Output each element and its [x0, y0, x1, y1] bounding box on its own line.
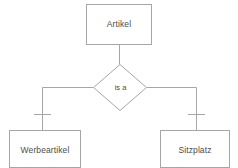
entity-label-artikel: Artikel — [86, 20, 152, 29]
entity-label-werbeartikel: Werbeartikel — [9, 146, 81, 155]
entity-label-sitzplatz: Sitzplatz — [160, 146, 230, 155]
connector-isa-to-sitzplatz — [147, 88, 197, 131]
connector-isa-to-werbeartikel — [43, 88, 94, 131]
relationship-label-is-a: is a — [94, 84, 147, 92]
er-diagram-canvas: Artikel Werbeartikel Sitzplatz is a — [0, 0, 238, 168]
